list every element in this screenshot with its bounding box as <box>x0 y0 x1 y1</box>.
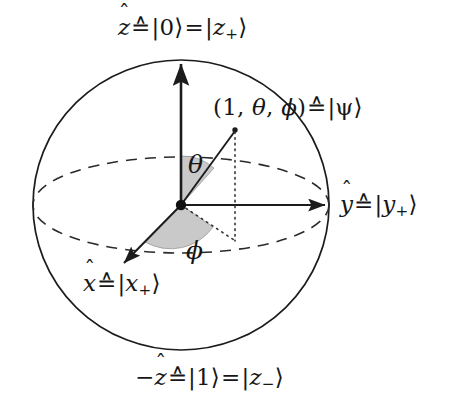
label-y-positive-axis: y≙|y+⟩ <box>340 193 418 219</box>
ket-zero: |0⟩ <box>152 14 184 40</box>
state-coords-open: (1, <box>213 94 252 120</box>
z-hat-symbol: z <box>118 16 130 39</box>
label-state-point: (1, θ, ϕ)≙|ψ⟩ <box>213 96 363 119</box>
y-hat-symbol: y <box>340 193 353 216</box>
state-coords-comma: , <box>266 94 281 120</box>
ket-z-plus-name: z <box>213 14 225 40</box>
ket-z-plus: |z+⟩ <box>205 14 247 40</box>
corresponds-symbol: ≙ <box>167 366 188 389</box>
minus-sign: − <box>135 364 154 390</box>
theta-angle-label: θ <box>188 152 203 177</box>
ket-one: |1⟩ <box>188 364 220 390</box>
ket-psi: |ψ⟩ <box>327 94 362 120</box>
state-theta-symbol: θ <box>252 94 266 120</box>
corresponds-symbol: ≙ <box>96 272 117 295</box>
bloch-sphere-figure: z≙|0⟩=|z+⟩ −z≙|1⟩=|z−⟩ y≙|y+⟩ x≙|x+⟩ (1,… <box>0 0 459 416</box>
label-z-negative-axis: −z≙|1⟩=|z−⟩ <box>135 366 284 392</box>
state-phi-symbol: ϕ <box>281 94 297 120</box>
equals-symbol: = <box>184 16 205 39</box>
corresponds-symbol: ≙ <box>306 96 327 119</box>
ket-x-plus: |x+⟩ <box>117 270 160 296</box>
state-coords-close: ) <box>297 94 306 120</box>
label-x-positive-axis: x≙|x+⟩ <box>83 272 161 298</box>
ket-y-plus: |y+⟩ <box>374 191 417 217</box>
ket-x-plus-subscript: + <box>139 281 152 299</box>
ket-y-plus-name: y <box>382 191 395 217</box>
phi-angle-label: ϕ <box>186 238 203 263</box>
equals-symbol: = <box>220 366 241 389</box>
corresponds-symbol: ≙ <box>130 16 151 39</box>
corresponds-symbol: ≙ <box>353 193 374 216</box>
ket-z-minus-subscript: − <box>262 375 275 393</box>
ket-y-plus-subscript: + <box>396 202 409 220</box>
z-hat-symbol-negative: z <box>154 366 166 389</box>
ket-z-minus: |z−⟩ <box>241 364 283 390</box>
x-hat-symbol: x <box>83 272 96 295</box>
ket-z-minus-name: z <box>249 364 261 390</box>
label-z-positive-axis: z≙|0⟩=|z+⟩ <box>118 16 247 42</box>
ket-x-plus-name: x <box>125 270 138 296</box>
ket-z-plus-subscript: + <box>225 25 238 43</box>
origin-point <box>176 200 186 210</box>
